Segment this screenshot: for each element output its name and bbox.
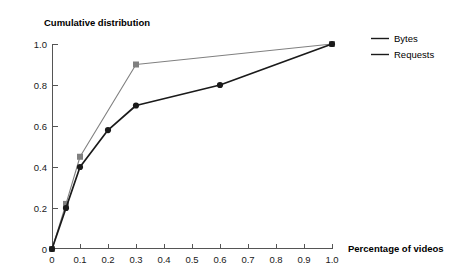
data-point-bytes [77, 154, 83, 160]
data-point-requests [217, 82, 223, 88]
y-tick-label: 0.2 [34, 203, 47, 214]
x-tick-label: 0.5 [185, 254, 198, 265]
data-point-bytes [133, 62, 139, 68]
x-tick-label: 0.8 [269, 254, 282, 265]
x-tick-label: 0.1 [73, 254, 86, 265]
data-point-requests [133, 102, 139, 108]
data-point-requests [49, 246, 55, 252]
chart-figure: Cumulative distribution 1.0 0.8 0.6 0.4 … [0, 0, 463, 280]
cumulative-distribution-chart: Cumulative distribution 1.0 0.8 0.6 0.4 … [0, 0, 463, 280]
x-tick-label: 1.0 [325, 254, 338, 265]
x-axis-title: Percentage of videos [348, 243, 444, 254]
x-tick-label: 0 [49, 254, 54, 265]
y-tick-label-zero: 0 [42, 244, 47, 255]
y-tick-label: 0.6 [34, 121, 47, 132]
legend-label-requests: Requests [394, 49, 434, 60]
y-tick-label: 0.4 [34, 162, 47, 173]
x-tick-label: 0.3 [129, 254, 142, 265]
x-tick-label: 0.6 [213, 254, 226, 265]
x-tick-label: 0.4 [157, 254, 170, 265]
data-point-requests [77, 164, 83, 170]
x-tick-label: 0.2 [101, 254, 114, 265]
data-point-requests [63, 205, 69, 211]
data-point-requests [329, 41, 335, 47]
x-tick-label: 0.7 [241, 254, 254, 265]
chart-title: Cumulative distribution [44, 17, 150, 28]
data-point-requests [105, 127, 111, 133]
y-tick-label: 0.8 [34, 80, 47, 91]
legend-label-bytes: Bytes [394, 33, 418, 44]
y-tick-label: 1.0 [34, 39, 47, 50]
x-tick-label: 0.9 [297, 254, 310, 265]
